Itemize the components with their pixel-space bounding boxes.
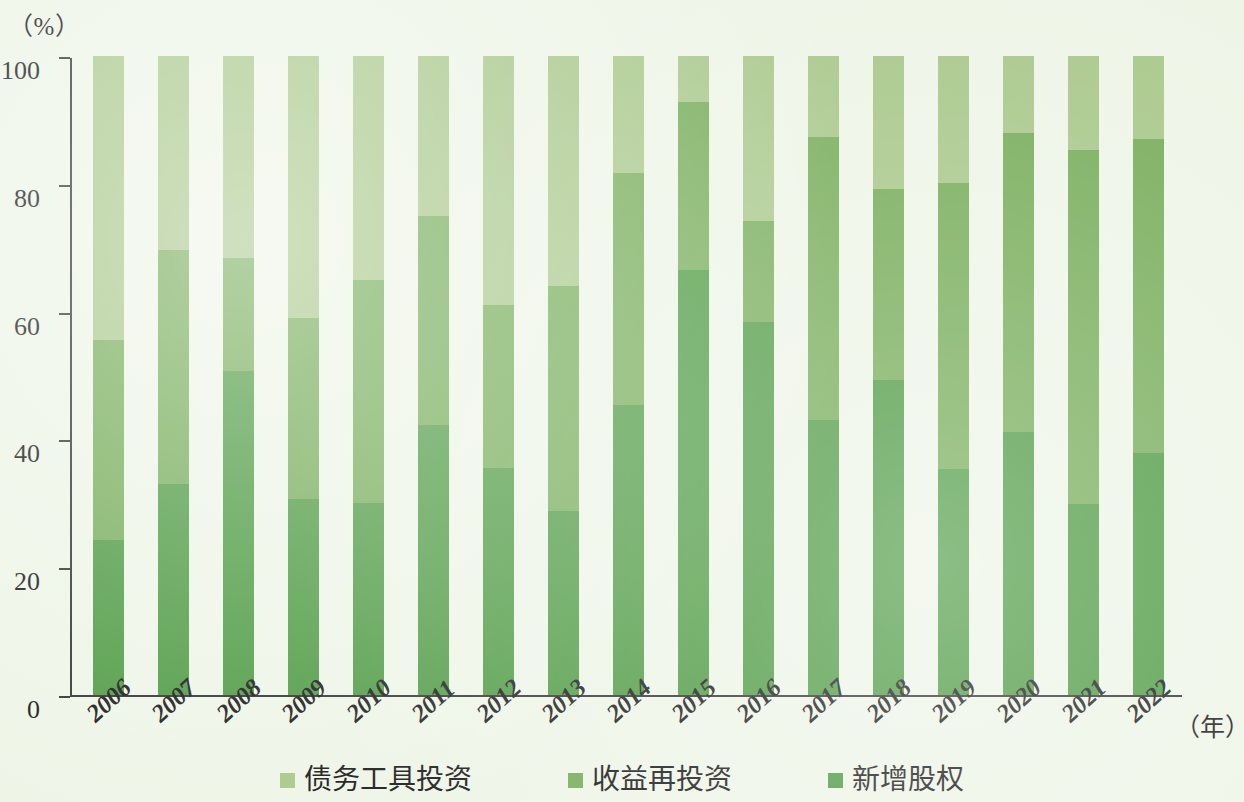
bar-segment[interactable] (483, 305, 514, 467)
legend-label: 收益再投资 (592, 766, 732, 794)
bar-segment[interactable] (548, 56, 579, 286)
bar-segment[interactable] (548, 286, 579, 511)
bar-group[interactable] (483, 56, 514, 695)
y-axis-tick-label-text: 0 (27, 697, 40, 723)
bar-segment[interactable] (158, 56, 189, 250)
bar-segment[interactable] (1133, 56, 1164, 139)
y-axis-tick-label-text: 80 (14, 186, 40, 212)
stacked-bar-chart: （%） 020406080100 20062007200820092010201… (0, 0, 1244, 802)
bar-segment[interactable] (613, 405, 644, 695)
chart-legend: 债务工具投资收益再投资新增股权 (0, 766, 1244, 794)
bar-segment[interactable] (808, 56, 839, 137)
bar-group[interactable] (418, 56, 449, 695)
bar-segment[interactable] (873, 380, 904, 695)
legend-swatch-debt (280, 773, 295, 788)
bar-segment[interactable] (223, 371, 254, 695)
bar-segment[interactable] (548, 511, 579, 695)
bar-segment[interactable] (93, 56, 124, 340)
y-axis-tick-mark (59, 568, 70, 570)
bar-segment[interactable] (418, 56, 449, 216)
bar-segment[interactable] (808, 420, 839, 695)
bar-segment[interactable] (288, 56, 319, 318)
legend-item[interactable]: 债务工具投资 (280, 766, 472, 794)
bar-segment[interactable] (353, 280, 384, 502)
bar-segment[interactable] (93, 340, 124, 540)
legend-item[interactable]: 新增股权 (828, 766, 964, 794)
bar-segment[interactable] (873, 189, 904, 380)
bar-segment[interactable] (1133, 139, 1164, 453)
x-axis-unit-label: （年） (1175, 707, 1244, 743)
bar-group[interactable] (743, 56, 774, 695)
bar-segment[interactable] (938, 56, 969, 183)
bar-group[interactable] (158, 56, 189, 695)
y-axis-tick-label-text: 20 (14, 569, 40, 595)
y-axis-tick-mark (59, 440, 70, 442)
bar-segment[interactable] (158, 250, 189, 485)
bar-group[interactable] (1003, 56, 1034, 695)
bar-segment[interactable] (158, 484, 189, 695)
bar-group[interactable] (93, 56, 124, 695)
y-axis-line (70, 58, 72, 697)
bar-segment[interactable] (288, 499, 319, 695)
y-axis-tick-label-text: 100 (1, 58, 40, 84)
y-axis-tick-label-text: 40 (14, 441, 40, 467)
bar-segment[interactable] (873, 56, 904, 189)
y-axis-tick-label-text: 60 (14, 314, 40, 340)
bar-group[interactable] (873, 56, 904, 695)
bar-segment[interactable] (93, 540, 124, 695)
bar-segment[interactable] (1003, 133, 1034, 432)
bar-group[interactable] (808, 56, 839, 695)
bar-segment[interactable] (418, 216, 449, 425)
bar-segment[interactable] (1003, 56, 1034, 133)
y-axis-tick-labels: 020406080100 (0, 58, 54, 697)
bar-group[interactable] (678, 56, 709, 695)
legend-label: 新增股权 (852, 766, 964, 794)
bar-segment[interactable] (1068, 150, 1099, 504)
bar-segment[interactable] (613, 56, 644, 173)
y-axis-tick-mark (59, 57, 70, 59)
bar-segment[interactable] (483, 468, 514, 695)
bar-segment[interactable] (678, 56, 709, 102)
legend-item[interactable]: 收益再投资 (568, 766, 732, 794)
bar-segment[interactable] (678, 270, 709, 695)
bar-group[interactable] (1068, 56, 1099, 695)
y-axis-tick-mark (59, 185, 70, 187)
y-axis-tick-mark (59, 696, 70, 698)
bar-group[interactable] (548, 56, 579, 695)
bar-segment[interactable] (1003, 432, 1034, 695)
bar-group[interactable] (288, 56, 319, 695)
bar-segment[interactable] (743, 322, 774, 695)
bar-segment[interactable] (938, 469, 969, 695)
legend-swatch-equity (828, 773, 843, 788)
bar-segment[interactable] (483, 56, 514, 305)
legend-label: 债务工具投资 (304, 766, 472, 794)
bar-segment[interactable] (678, 102, 709, 270)
bar-group[interactable] (353, 56, 384, 695)
bar-group[interactable] (938, 56, 969, 695)
bar-segment[interactable] (353, 56, 384, 280)
bar-segment[interactable] (1133, 453, 1164, 695)
bar-segment[interactable] (223, 258, 254, 371)
plot-area (70, 58, 1182, 697)
y-axis-tick-mark (59, 313, 70, 315)
legend-swatch-reinvested (568, 773, 583, 788)
bar-segment[interactable] (418, 425, 449, 695)
bar-segment[interactable] (353, 503, 384, 695)
bar-group[interactable] (223, 56, 254, 695)
bar-segment[interactable] (808, 137, 839, 421)
bar-segment[interactable] (1068, 56, 1099, 150)
bar-segment[interactable] (223, 56, 254, 258)
bar-segment[interactable] (743, 56, 774, 221)
bar-segment[interactable] (743, 221, 774, 322)
bar-segment[interactable] (1068, 504, 1099, 695)
bar-segment[interactable] (288, 318, 319, 499)
bar-segment[interactable] (613, 173, 644, 405)
bar-group[interactable] (1133, 56, 1164, 695)
bar-group[interactable] (613, 56, 644, 695)
y-axis-unit-label: （%） (8, 6, 80, 42)
bar-segment[interactable] (938, 183, 969, 469)
